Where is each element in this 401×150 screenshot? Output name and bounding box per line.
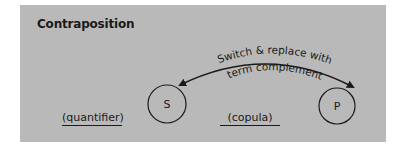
quantifier-blank-line <box>62 125 122 126</box>
copula-label: (copula) <box>220 111 280 124</box>
copula-blank-line <box>220 125 280 126</box>
quantifier-label: (quantifier) <box>62 111 120 124</box>
subject-term: S <box>164 98 171 111</box>
predicate-term: P <box>334 100 341 113</box>
contraposition-diagram: Switch & replace with term complement S … <box>0 0 401 150</box>
arrow-label-line-2: term complement <box>225 60 324 82</box>
